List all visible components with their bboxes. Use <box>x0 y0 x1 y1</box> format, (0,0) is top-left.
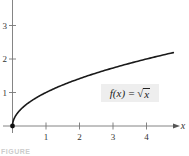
x-tick-label-3: 3 <box>111 132 116 142</box>
y-tick-label-3: 3 <box>3 21 8 31</box>
x-tick-label-1: 1 <box>44 132 49 142</box>
function-label-prefix: f(x) = <box>110 87 135 99</box>
x-axis-label: x <box>180 120 186 131</box>
x-tick-label-2: 2 <box>77 132 82 142</box>
y-tick-label-2: 2 <box>3 54 8 64</box>
origin-point <box>10 124 15 129</box>
x-axis-arrow-icon <box>173 124 180 129</box>
square-root-function-chart: 1 2 3 4 1 2 3 x <box>0 0 189 156</box>
y-tick-label-1: 1 <box>3 88 8 98</box>
function-label-box: f(x) = √ x <box>101 84 159 102</box>
function-label-radicand: x <box>143 88 150 99</box>
x-tick-label-4: 4 <box>144 132 149 142</box>
figure-caption: FIGURE <box>1 148 30 155</box>
